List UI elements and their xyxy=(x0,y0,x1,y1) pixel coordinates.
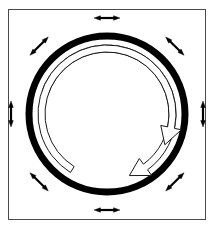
double-arrow-top-left xyxy=(30,37,48,55)
double-arrow-left-head-b xyxy=(9,101,14,108)
double-arrow-right xyxy=(201,101,206,127)
double-arrow-right-head-a xyxy=(201,101,206,108)
double-arrow-right-head-b xyxy=(201,121,206,128)
double-arrow-left-head-a xyxy=(9,121,14,128)
figure-root: Rotating ring with radial expansion arro… xyxy=(0,0,215,229)
double-arrow-bottom-head-b xyxy=(94,208,101,213)
double-arrow-bottom-head-a xyxy=(114,208,121,213)
double-arrow-bottom xyxy=(94,208,120,213)
double-arrow-bottom-right xyxy=(166,173,184,191)
thick-black-ring xyxy=(29,36,185,192)
double-arrow-top-right xyxy=(166,37,184,55)
double-arrow-bottom-left xyxy=(30,173,48,191)
double-arrow-top xyxy=(94,16,120,21)
rotation-arrow-layer xyxy=(38,45,181,176)
double-arrow-top-head-b xyxy=(114,16,121,21)
double-arrow-left xyxy=(9,101,14,127)
ring-layer xyxy=(29,36,185,192)
double-arrow-top-head-a xyxy=(94,16,101,21)
ring-rotation-diagram xyxy=(0,0,215,229)
